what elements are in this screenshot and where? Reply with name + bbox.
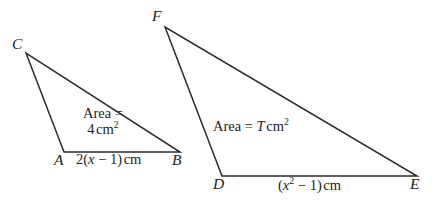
triangle-def-shape	[165, 27, 417, 176]
vertex-label-b: B	[172, 152, 181, 169]
triangle-def-outline	[165, 27, 417, 176]
base-label-ab: 2(x − 1) cm	[76, 152, 141, 168]
area-variable-def: T	[257, 118, 265, 134]
base-label-ab-prefix: 2(	[76, 151, 88, 167]
base-label-de-unit: cm	[323, 177, 341, 193]
base-label-ab-operator: − 1)	[95, 151, 123, 167]
vertex-label-f: F	[152, 8, 161, 25]
area-label-abc-line1: Area =	[61, 106, 145, 122]
vertex-label-e: E	[410, 176, 419, 193]
area-label-abc: Area = 4 cm2	[61, 106, 145, 137]
area-label-def-prefix: Area =	[213, 118, 257, 134]
area-unit-exponent-abc: 2	[114, 119, 119, 130]
base-label-de-operator: − 1)	[294, 177, 322, 193]
area-unit-def: cm	[266, 118, 284, 134]
area-unit-exponent-def: 2	[284, 116, 289, 127]
area-unit-abc: cm	[96, 121, 114, 137]
vertex-label-c: C	[12, 36, 22, 53]
base-label-de: (x2 − 1) cm	[278, 178, 341, 194]
area-label-abc-line2: 4 cm2	[61, 122, 145, 138]
vertex-label-d: D	[213, 176, 224, 193]
base-label-ab-unit: cm	[124, 151, 142, 167]
area-label-def: Area = T cm2	[213, 119, 289, 135]
vertex-label-a: A	[54, 152, 63, 169]
geometry-figure: C A B Area = 4 cm2 2(x − 1) cm F D E Are…	[0, 0, 435, 214]
